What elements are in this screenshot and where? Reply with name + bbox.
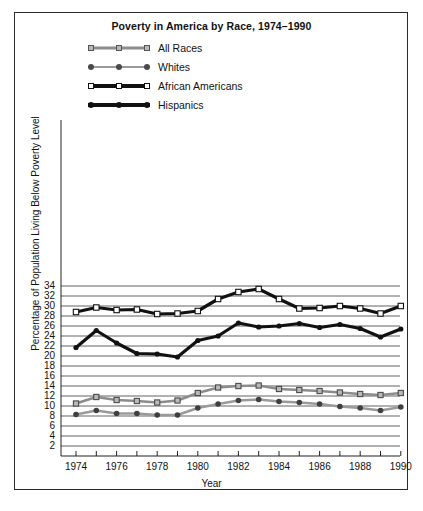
y-axis-tick-label: 20 [29,351,55,361]
y-axis-tick-label: 26 [29,321,55,331]
x-axis-tick-label: 1986 [300,462,340,472]
x-axis-tick-label: 1980 [178,462,218,472]
x-axis-tick-label: 1984 [259,462,299,472]
legend-item: African Americans [88,76,328,95]
x-axis-tick-label: 1976 [97,462,137,472]
legend-item-label: Whites [158,61,190,73]
legend-marker-filled-circle-gray-icon [88,61,150,73]
y-axis-tick-label: 34 [29,281,55,291]
x-axis-tick-label: 1988 [340,462,380,472]
y-axis-tick-label: 32 [29,291,55,301]
legend-item-label: Hispanics [158,99,204,111]
y-axis-tick-label: 16 [29,371,55,381]
legend-marker-open-square-black-icon [88,80,150,92]
y-axis-tick-label: 10 [29,401,55,411]
chart-title: Poverty in America by Race, 1974–1990 [0,20,423,32]
y-axis-tick-label: 28 [29,311,55,321]
legend-item: All Races [88,38,328,57]
y-axis-tick-label: 8 [29,411,55,421]
poverty-chart-figure: Poverty in America by Race, 1974–1990 Al… [0,0,423,511]
y-axis-tick-label: 2 [29,441,55,451]
legend-item-label: All Races [158,42,202,54]
y-axis-tick-label: 14 [29,381,55,391]
y-axis-tick-label: 12 [29,391,55,401]
legend-marker-filled-circle-black-icon [88,99,150,111]
y-axis-tick-label: 24 [29,331,55,341]
chart-legend: All RacesWhitesAfrican AmericansHispanic… [88,38,328,114]
x-axis-tick-label: 1978 [137,462,177,472]
x-axis-tick-label: 1974 [56,462,96,472]
legend-marker-open-square-gray-icon [88,42,150,54]
x-axis-label: Year [0,478,423,489]
y-axis-tick-label: 4 [29,431,55,441]
legend-item-label: African Americans [158,80,243,92]
y-axis-tick-label: 6 [29,421,55,431]
x-axis-tick-label: 1982 [218,462,258,472]
y-axis-tick-label: 30 [29,301,55,311]
legend-item: Whites [88,57,328,76]
y-axis-tick-label: 18 [29,361,55,371]
y-axis-tick-label: 22 [29,341,55,351]
legend-item: Hispanics [88,95,328,114]
x-axis-tick-label: 1990 [381,462,421,472]
